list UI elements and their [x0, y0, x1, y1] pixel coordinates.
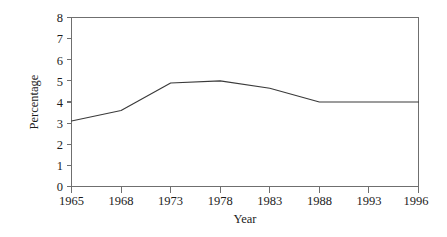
y-tick-label-7: 7	[57, 32, 63, 46]
y-tick-label-6: 6	[57, 54, 63, 68]
x-tick-label-1973: 1973	[158, 194, 183, 208]
line-chart: 8 7 6 5 4 3 2 1 0 1965 1968 1973 1978	[0, 0, 447, 237]
y-tick-label-0: 0	[57, 180, 63, 194]
y-tick-label-4: 4	[57, 96, 64, 110]
chart-page: 8 7 6 5 4 3 2 1 0 1965 1968 1973 1978	[0, 0, 447, 237]
x-tick-label-1978: 1978	[208, 194, 233, 208]
y-axis-title: Percentage	[27, 74, 41, 129]
x-tick-label-1983: 1983	[257, 194, 282, 208]
x-tick-label-1965: 1965	[59, 194, 84, 208]
y-tick-label-5: 5	[57, 75, 63, 89]
y-tick-label-3: 3	[57, 117, 63, 131]
y-axis-ticks	[67, 18, 72, 187]
x-axis-ticks	[72, 187, 419, 193]
x-tick-label-1993: 1993	[356, 194, 381, 208]
x-axis-labels: 1965 1968 1973 1978 1983 1988 1993 1996	[59, 194, 429, 208]
y-tick-label-8: 8	[57, 11, 63, 25]
y-tick-label-2: 2	[57, 138, 63, 152]
x-tick-label-1968: 1968	[109, 194, 134, 208]
y-axis-labels: 8 7 6 5 4 3 2 1 0	[57, 11, 64, 194]
y-tick-label-1: 1	[57, 159, 63, 173]
x-tick-label-1988: 1988	[307, 194, 332, 208]
data-series-line	[72, 81, 419, 121]
x-tick-label-1996: 1996	[404, 194, 429, 208]
x-axis-title: Year	[233, 212, 257, 226]
